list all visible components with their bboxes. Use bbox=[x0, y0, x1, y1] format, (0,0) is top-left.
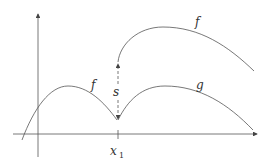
curve-f-upper bbox=[118, 27, 254, 71]
label-x1-subscript: 1 bbox=[119, 151, 124, 160]
label-f-lower: f bbox=[90, 78, 98, 92]
label-g: g bbox=[196, 78, 204, 92]
curve-g bbox=[118, 86, 253, 130]
label-f-upper: f bbox=[194, 15, 202, 29]
curve-f-lower bbox=[22, 86, 117, 140]
label-x1: x bbox=[110, 144, 117, 158]
diagram-canvas: f f g s x 1 bbox=[0, 0, 271, 166]
label-s: s bbox=[113, 85, 119, 99]
